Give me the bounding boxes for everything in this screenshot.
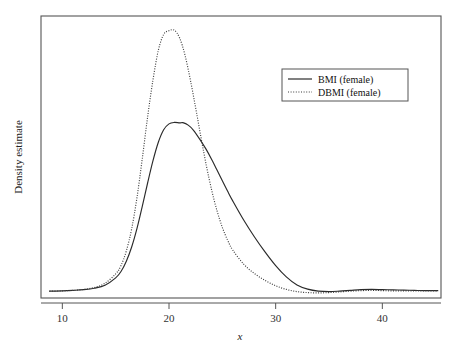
legend[interactable]: BMI (female) DBMI (female) bbox=[282, 69, 408, 101]
density-plot-figure: 10203040 x Density estimate BMI (female)… bbox=[0, 0, 460, 352]
x-tick-label-20: 20 bbox=[164, 312, 176, 324]
x-tick-label-30: 30 bbox=[270, 312, 282, 324]
x-tick-label-40: 40 bbox=[377, 312, 389, 324]
legend-label-bmi: BMI (female) bbox=[318, 74, 373, 86]
x-axis-label: x bbox=[237, 330, 243, 342]
x-tick-label-10: 10 bbox=[57, 312, 69, 324]
figure-background bbox=[0, 0, 460, 352]
y-axis-label: Density estimate bbox=[12, 120, 24, 194]
legend-label-dbmi: DBMI (female) bbox=[318, 87, 380, 99]
